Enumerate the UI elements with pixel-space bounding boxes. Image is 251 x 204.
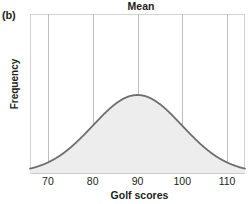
plot-area — [0, 0, 251, 204]
x-tick-label-100: 100 — [162, 175, 202, 188]
x-axis-label: Golf scores — [38, 189, 241, 201]
x-tick-label-80: 80 — [73, 175, 113, 188]
x-tick-label-70: 70 — [28, 175, 68, 188]
x-tick-label-90: 90 — [118, 175, 158, 188]
x-tick-label-110: 110 — [207, 175, 247, 188]
figure-panel-b: (b) Mean Frequency 708090100110 Golf sco… — [0, 0, 251, 204]
distribution-plot — [0, 0, 251, 204]
x-axis-tick-labels: 708090100110 — [0, 175, 251, 189]
